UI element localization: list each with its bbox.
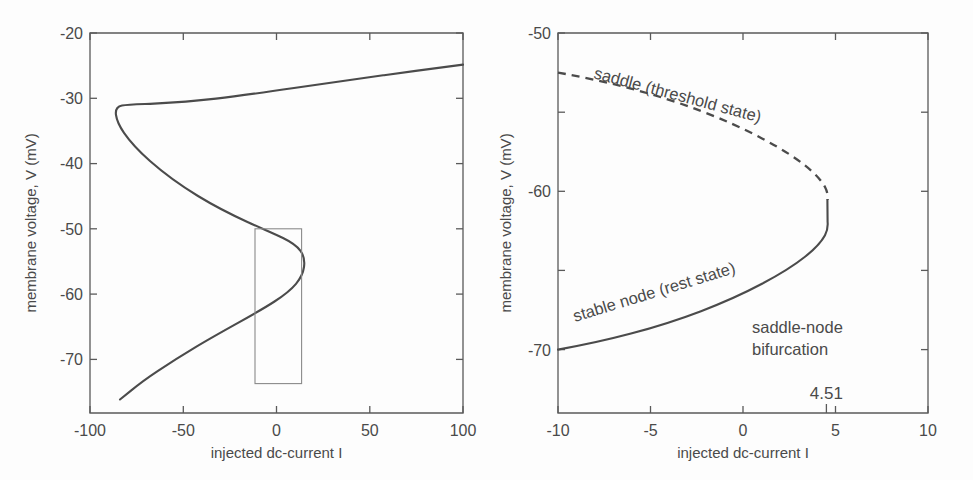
left-ytick-label-0: -20 (60, 25, 83, 42)
right-xtick-label-0: -10 (546, 422, 569, 439)
left-xtick-label-0: -100 (74, 422, 106, 439)
right-axis-frame (558, 33, 928, 413)
left-yaxis-title: membrane voltage, V (mV) (22, 133, 39, 312)
left-equilibrium-curve (116, 65, 463, 400)
left-xtick-label-4: 100 (450, 422, 477, 439)
saddle-node-bifurcation-label-line2: bifurcation (752, 340, 828, 358)
right-ytick-label-1: -60 (528, 183, 551, 200)
left-ytick-label-4: -60 (60, 286, 83, 303)
right-ytick-label-0: -50 (528, 25, 551, 42)
left-xtick-label-1: -50 (172, 422, 195, 439)
left-ytick-label-2: -40 (60, 155, 83, 172)
right-ytick-label-2: -70 (528, 342, 551, 359)
bifurcation-value-label: 4.51 (810, 384, 843, 403)
saddle-threshold-state-label: saddle (threshold state) (592, 64, 763, 126)
left-zoom-region-box (255, 229, 302, 384)
left-xtick-label-2: 0 (272, 422, 281, 439)
saddle-node-bifurcation-label-line1: saddle-node (752, 318, 843, 336)
right-yaxis-title: membrane voltage, V (mV) (497, 133, 514, 312)
left-ytick-label-1: -30 (60, 90, 83, 107)
right-plot-svg: -50 -60 -70 -10 -5 0 5 10 injected dc-cu… (487, 0, 973, 480)
left-plot-svg: -20 -30 -40 -50 -60 -70 -100 -50 0 50 10… (0, 0, 487, 480)
left-plot-panel: -20 -30 -40 -50 -60 -70 -100 -50 0 50 10… (0, 0, 487, 480)
left-ytick-label-3: -50 (60, 221, 83, 238)
stable-node-rest-state-label: stable node (rest state) (571, 258, 738, 325)
bifurcation-figure: -20 -30 -40 -50 -60 -70 -100 -50 0 50 10… (0, 0, 973, 480)
right-x-ticks (558, 33, 928, 413)
left-y-ticks (90, 33, 463, 359)
left-ytick-label-5: -70 (60, 351, 83, 368)
left-xtick-label-3: 50 (361, 422, 379, 439)
right-xtick-label-3: 5 (831, 422, 840, 439)
right-xtick-label-1: -5 (643, 422, 657, 439)
right-xtick-label-2: 0 (739, 422, 748, 439)
right-xaxis-title: injected dc-current I (677, 444, 809, 461)
left-xaxis-title: injected dc-current I (211, 444, 343, 461)
right-plot-panel: -50 -60 -70 -10 -5 0 5 10 injected dc-cu… (487, 0, 973, 480)
right-xtick-label-4: 10 (919, 422, 937, 439)
